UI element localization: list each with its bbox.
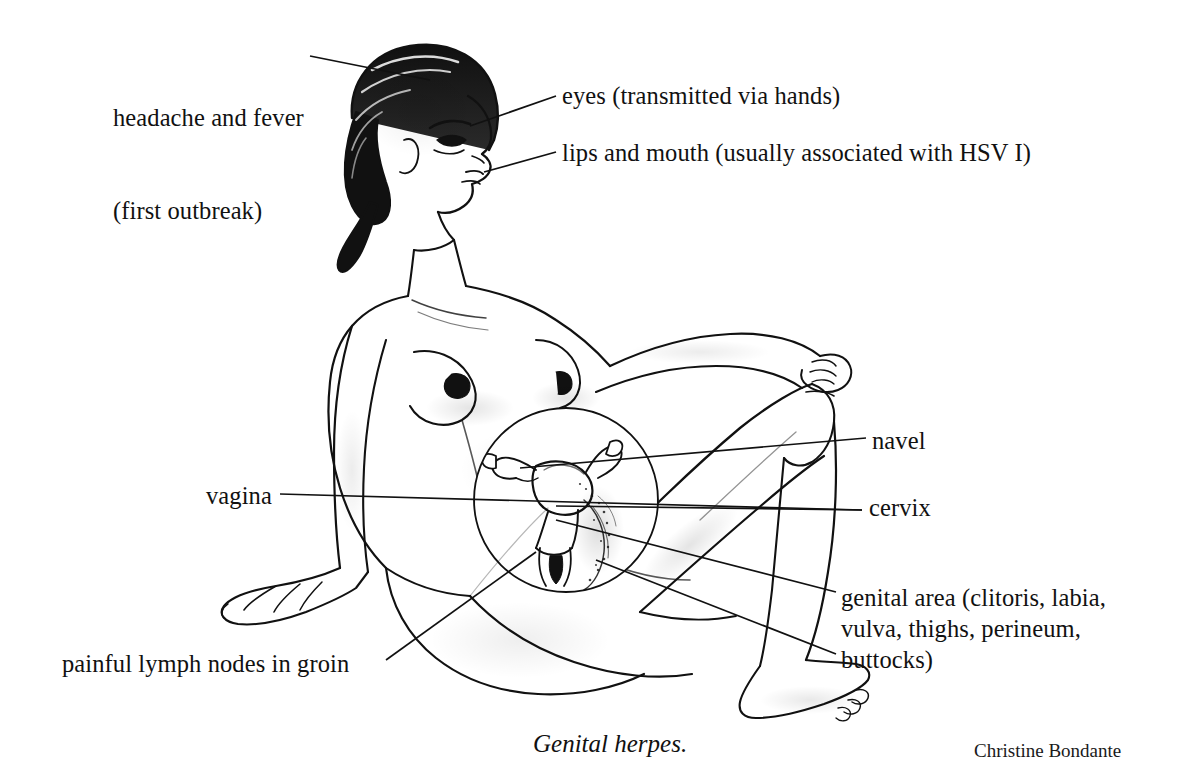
label-headache-and-fever: headache and fever (first outbreak) bbox=[113, 40, 304, 288]
label-cervix: cervix bbox=[869, 492, 931, 523]
figure-caption: Genital herpes. bbox=[533, 730, 687, 758]
label-genital-line3: buttocks) bbox=[841, 644, 1161, 675]
label-headache-line1: headache and fever bbox=[113, 102, 304, 133]
label-painful-lymph-nodes: painful lymph nodes in groin bbox=[62, 648, 349, 679]
label-lips-and-mouth: lips and mouth (usually associated with … bbox=[562, 137, 1031, 168]
label-headache-line2: (first outbreak) bbox=[113, 195, 304, 226]
label-genital-line2: vulva, thighs, perineum, bbox=[841, 613, 1161, 644]
label-genital-area: genital area (clitoris, labia, vulva, th… bbox=[841, 582, 1161, 675]
label-eyes: eyes (transmitted via hands) bbox=[562, 80, 840, 111]
label-genital-line1: genital area (clitoris, labia, bbox=[841, 582, 1161, 613]
head-and-hair bbox=[338, 45, 498, 296]
genital-herpes-figure: headache and fever (first outbreak) eyes… bbox=[0, 0, 1182, 783]
right-arm-to-knee bbox=[596, 334, 851, 396]
left-arm-bracing bbox=[222, 326, 386, 624]
leader-line-genital-2 bbox=[596, 560, 836, 654]
artist-credit: Christine Bondante bbox=[974, 740, 1121, 762]
label-navel: navel bbox=[872, 425, 926, 456]
leader-line-lips bbox=[484, 152, 556, 172]
label-vagina: vagina bbox=[206, 480, 272, 511]
